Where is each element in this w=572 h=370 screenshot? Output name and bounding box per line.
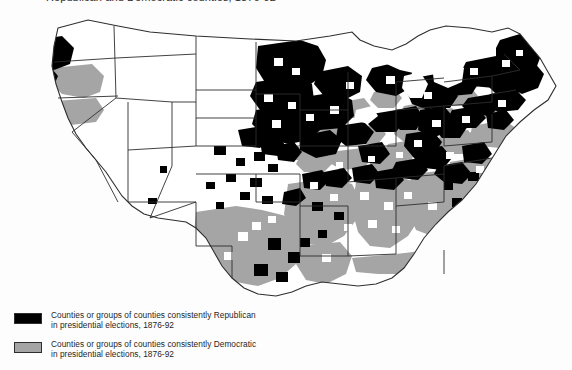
legend-label-republican: Counties or groups of counties consisten… [51, 311, 256, 330]
us-county-choropleth [0, 6, 572, 306]
legend-entry-republican: Counties or groups of counties consisten… [14, 311, 314, 330]
map-base-land [0, 6, 572, 306]
legend-entry-democratic: Counties or groups of counties consisten… [14, 340, 314, 359]
map-canvas [0, 6, 572, 306]
legend-swatch-republican [14, 313, 42, 324]
historical-election-map-figure: Republican and Democratic counties, 1876… [0, 0, 572, 370]
map-legend: Counties or groups of counties consisten… [14, 311, 314, 369]
legend-republican-line1: Counties or groups of counties consisten… [51, 310, 256, 320]
legend-swatch-democratic [14, 342, 42, 353]
legend-label-democratic: Counties or groups of counties consisten… [51, 340, 256, 359]
legend-democratic-line1: Counties or groups of counties consisten… [51, 339, 256, 349]
legend-democratic-line2: in presidential elections, 1876-92 [51, 350, 256, 360]
legend-republican-line2: in presidential elections, 1876-92 [51, 321, 256, 331]
figure-title: Republican and Democratic counties, 1876… [46, 0, 276, 3]
